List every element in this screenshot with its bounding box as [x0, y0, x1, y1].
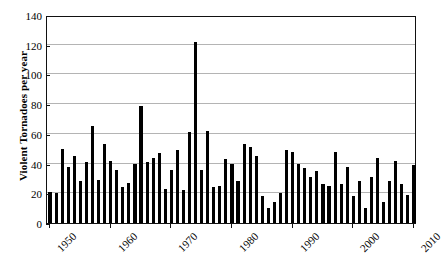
bar [109, 161, 112, 223]
bar [115, 170, 118, 223]
bar [230, 164, 233, 223]
bar [406, 195, 409, 223]
y-tick-label: 120 [8, 41, 42, 52]
bar [279, 193, 282, 223]
x-tick-label: 1990 [297, 230, 321, 254]
bar [334, 152, 337, 223]
y-tick-mark [46, 165, 50, 166]
bar [267, 208, 270, 223]
bar [303, 168, 306, 223]
bar [273, 202, 276, 223]
y-tick-mark [46, 105, 50, 106]
bar [97, 180, 100, 223]
bar [358, 181, 361, 223]
bar [200, 170, 203, 223]
bar [327, 186, 330, 223]
bar [61, 149, 64, 223]
bar [285, 150, 288, 223]
bar [218, 186, 221, 223]
bar [146, 162, 149, 223]
bar [412, 165, 415, 223]
y-tick-mark [46, 135, 50, 136]
bar [121, 187, 124, 223]
bar [236, 181, 239, 223]
bar [388, 181, 391, 223]
bar [376, 158, 379, 223]
bar [73, 156, 76, 223]
y-tick-label: 0 [8, 219, 42, 230]
bar [249, 147, 252, 223]
bar [255, 156, 258, 223]
bar [321, 184, 324, 223]
bar [182, 190, 185, 223]
bar [291, 152, 294, 223]
bar [127, 183, 130, 223]
bar [364, 208, 367, 223]
bar [394, 161, 397, 223]
x-tick-label: 1980 [236, 230, 260, 254]
x-axis-tick-labels: 1950196019701980199020002010 [46, 224, 416, 279]
bar [224, 159, 227, 223]
bar [85, 162, 88, 223]
bar [315, 171, 318, 223]
y-tick-label: 80 [8, 100, 42, 111]
x-tick-mark [170, 224, 171, 228]
y-axis-tick-labels: 020406080100120140 [4, 16, 42, 224]
y-tick-mark [46, 194, 50, 195]
bar [243, 144, 246, 223]
bar [382, 202, 385, 223]
bar [164, 189, 167, 223]
bar [206, 131, 209, 223]
bar [194, 42, 197, 223]
bar [91, 126, 94, 223]
y-tick-mark [46, 224, 50, 225]
x-tick-mark [413, 224, 414, 228]
bar [158, 153, 161, 223]
bar [152, 158, 155, 223]
bar [370, 177, 373, 223]
x-tick-label: 1960 [115, 230, 139, 254]
plot-area [46, 16, 416, 224]
bar [297, 164, 300, 223]
bar [103, 144, 106, 223]
bar [48, 192, 51, 223]
bar [352, 196, 355, 223]
bar [67, 167, 70, 223]
bar [79, 181, 82, 223]
bar [188, 132, 191, 223]
bar [400, 184, 403, 223]
x-tick-mark [352, 224, 353, 228]
x-tick-label: 1970 [176, 230, 200, 254]
y-tick-label: 40 [8, 160, 42, 171]
y-tick-label: 140 [8, 11, 42, 22]
y-tick-label: 60 [8, 130, 42, 141]
y-tick-label: 100 [8, 70, 42, 81]
bar [176, 150, 179, 223]
y-tick-mark [46, 75, 50, 76]
bar [346, 167, 349, 223]
bar [261, 196, 264, 223]
bar [340, 184, 343, 223]
bar [170, 170, 173, 223]
y-tick-label: 20 [8, 189, 42, 200]
bar [55, 193, 58, 223]
x-tick-mark [231, 224, 232, 228]
x-tick-label: 2010 [418, 230, 442, 254]
bar [139, 106, 142, 223]
bar [212, 187, 215, 223]
x-tick-label: 2000 [358, 230, 382, 254]
y-tick-mark [46, 16, 50, 17]
bar-series [47, 17, 415, 223]
x-tick-mark [292, 224, 293, 228]
bar [133, 164, 136, 223]
x-tick-label: 1950 [54, 230, 78, 254]
bar [309, 177, 312, 223]
y-tick-mark [46, 46, 50, 47]
x-tick-mark [110, 224, 111, 228]
